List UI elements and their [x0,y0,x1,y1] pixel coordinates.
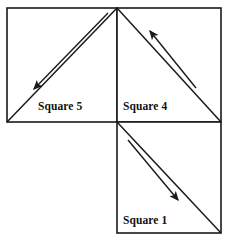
square-1-label: Square 1 [123,214,168,227]
square-4-label: Square 4 [123,100,168,113]
square-5-label: Square 5 [38,100,83,113]
square-dissection-figure: Square 5 Square 4 Square 1 [0,0,225,240]
figure-container: Square 5 Square 4 Square 1 [0,0,225,240]
